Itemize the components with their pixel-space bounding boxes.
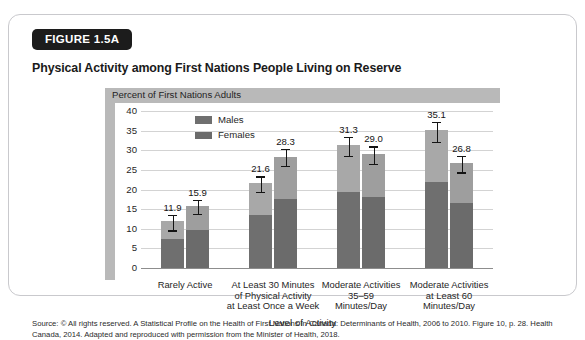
error-bar	[173, 215, 174, 231]
error-bar-cap	[369, 164, 378, 165]
chart-container: Percent of First Nations Adults MalesFem…	[105, 88, 500, 299]
error-bar-cap	[369, 146, 378, 147]
bar-value-label: 29.0	[357, 133, 391, 144]
plot-area: MalesFemales 051015202530354011.915.921.…	[141, 111, 493, 268]
bar-males[interactable]	[249, 183, 272, 268]
error-bar-cap	[256, 176, 265, 177]
error-bar-cap	[457, 172, 466, 173]
error-bar-cap	[344, 137, 353, 138]
error-bar-cap	[281, 149, 290, 150]
x-axis-category-labels: Rarely ActiveAt Least 30 Minutesof Physi…	[141, 280, 493, 316]
error-bar-cap	[281, 166, 290, 167]
chart-header-label: Percent of First Nations Adults	[112, 89, 241, 100]
error-bar	[462, 156, 463, 172]
error-bar-cap	[432, 142, 441, 143]
x-axis-category-label: At Least 30 Minutesof Physical Activitya…	[223, 280, 323, 312]
bar-value-label: 28.3	[269, 136, 303, 147]
error-bar	[374, 146, 375, 163]
bar-females[interactable]	[450, 163, 473, 268]
y-axis-tick-label: 25	[111, 164, 137, 175]
error-bar	[437, 122, 438, 142]
bar-females[interactable]	[362, 154, 385, 268]
bar-males[interactable]	[337, 145, 360, 268]
figure-title: Physical Activity among First Nations Pe…	[32, 61, 401, 75]
y-axis-tick-label: 40	[111, 105, 137, 116]
x-axis-category-label: Rarely Active	[135, 280, 235, 291]
y-axis-tick-label: 10	[111, 223, 137, 234]
error-bar-cap	[457, 156, 466, 157]
error-bar-cap	[344, 156, 353, 157]
bar-value-label: 35.1	[420, 109, 454, 120]
error-bar	[349, 137, 350, 156]
error-bar	[286, 149, 287, 166]
y-axis-tick-label: 15	[111, 203, 137, 214]
figure-card: FIGURE 1.5A Physical Activity among Firs…	[8, 14, 577, 296]
bar-females[interactable]	[274, 157, 297, 268]
plot-frame: MalesFemales 051015202530354011.915.921.…	[105, 103, 500, 280]
axis-baseline	[141, 268, 493, 269]
bar-group: 35.126.8	[405, 111, 493, 268]
error-bar-cap	[432, 122, 441, 123]
bar-group: 31.329.0	[317, 111, 405, 268]
top-edge-artifact	[0, 0, 585, 8]
x-axis-category-label: Moderate Activitiesat Least 60Minutes/Da…	[399, 280, 499, 312]
bar-value-label: 21.6	[244, 163, 278, 174]
bar-group: 11.915.9	[141, 111, 229, 268]
error-bar-cap	[168, 230, 177, 231]
y-axis-tick-label: 0	[111, 262, 137, 273]
bar-value-label: 26.8	[445, 143, 479, 154]
figure-number-badge: FIGURE 1.5A	[32, 29, 132, 50]
error-bar	[261, 176, 262, 192]
bar-group: 21.628.3	[229, 111, 317, 268]
x-axis-category-label: Moderate Activities35–59Minutes/Day	[311, 280, 411, 312]
error-bar-cap	[256, 192, 265, 193]
error-bar-cap	[168, 215, 177, 216]
y-axis-tick-label: 35	[111, 125, 137, 136]
chart-header-band: Percent of First Nations Adults	[105, 88, 500, 103]
y-axis-tick-label: 20	[111, 184, 137, 195]
bar-value-label: 15.9	[181, 187, 215, 198]
error-bar-cap	[193, 214, 202, 215]
y-axis-tick-label: 30	[111, 144, 137, 155]
bar-value-label: 11.9	[156, 202, 190, 213]
error-bar	[198, 200, 199, 214]
source-note: Source: © All rights reserved. A Statist…	[32, 319, 580, 340]
y-axis-tick-label: 5	[111, 242, 137, 253]
error-bar-cap	[193, 200, 202, 201]
